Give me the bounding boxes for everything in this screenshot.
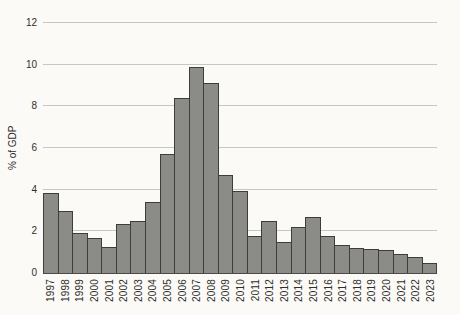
bar-2015 <box>305 217 321 273</box>
x-tick-label: 2012 <box>264 279 275 302</box>
x-tick-label: 2010 <box>235 279 246 302</box>
x-tick-label: 2022 <box>410 279 421 302</box>
bar-2011 <box>247 236 263 274</box>
bar-series <box>43 23 437 273</box>
x-tick-label: 2018 <box>352 279 363 302</box>
x-tick-label: 2013 <box>279 279 290 302</box>
x-tick-label: 2011 <box>250 279 261 301</box>
bar-2005 <box>160 154 176 273</box>
bar-2020 <box>378 250 394 273</box>
y-tick-label: 10 <box>26 59 37 71</box>
bar-2006 <box>174 98 190 273</box>
bar-1998 <box>58 211 74 274</box>
x-tick-label: 2021 <box>396 279 407 302</box>
x-tick-label: 2014 <box>293 279 304 302</box>
x-tick-label: 2015 <box>308 279 319 302</box>
x-tick-label: 1999 <box>74 279 85 302</box>
x-tick-label: 2000 <box>89 279 100 302</box>
bar-chart: % of GDP 024681012 199719981999200020012… <box>0 0 460 315</box>
bar-2017 <box>334 245 350 273</box>
x-tick-label: 2007 <box>191 279 202 302</box>
y-tick-label: 4 <box>31 184 37 196</box>
x-tick-label: 2003 <box>133 279 144 302</box>
bar-2016 <box>320 236 336 274</box>
x-tick-label: 2001 <box>104 279 115 302</box>
x-tick-label: 2004 <box>147 279 158 302</box>
y-tick-label: 0 <box>31 267 37 279</box>
bar-2013 <box>276 242 292 273</box>
x-tick-label: 2016 <box>323 279 334 302</box>
bar-2007 <box>189 67 205 273</box>
bar-1999 <box>72 233 88 273</box>
bar-2023 <box>422 263 438 273</box>
x-tick-label: 2008 <box>206 279 217 302</box>
x-tick-label: 2006 <box>177 279 188 302</box>
y-tick-label: 12 <box>26 17 37 29</box>
x-tick-label: 1997 <box>45 279 56 302</box>
bar-2002 <box>116 224 132 273</box>
bar-2012 <box>261 221 277 273</box>
x-tick-label: 2002 <box>118 279 129 302</box>
bar-2008 <box>203 83 219 273</box>
bar-2009 <box>218 175 234 273</box>
x-tick-label: 2009 <box>220 279 231 302</box>
x-axis-line <box>43 273 437 274</box>
y-axis-tick-labels: 024681012 <box>0 0 37 315</box>
bar-2004 <box>145 202 161 273</box>
bar-1997 <box>43 193 59 273</box>
x-tick-label: 2020 <box>381 279 392 302</box>
bar-2014 <box>291 227 307 273</box>
bar-2018 <box>349 248 365 273</box>
y-tick-label: 8 <box>31 100 37 112</box>
bar-2022 <box>407 257 423 273</box>
y-tick-label: 6 <box>31 142 37 154</box>
bar-2001 <box>101 247 117 273</box>
x-tick-label: 1998 <box>60 279 71 302</box>
y-tick-label: 2 <box>31 225 37 237</box>
x-tick-label: 2023 <box>425 279 436 302</box>
bar-2000 <box>87 238 103 273</box>
x-tick-label: 2019 <box>366 279 377 302</box>
x-tick-label: 2005 <box>162 279 173 302</box>
bar-2003 <box>130 221 146 273</box>
bar-2010 <box>232 191 248 273</box>
bar-2021 <box>393 254 409 273</box>
x-tick-label: 2017 <box>337 279 348 302</box>
plot-area <box>43 23 437 273</box>
bar-2019 <box>363 249 379 273</box>
